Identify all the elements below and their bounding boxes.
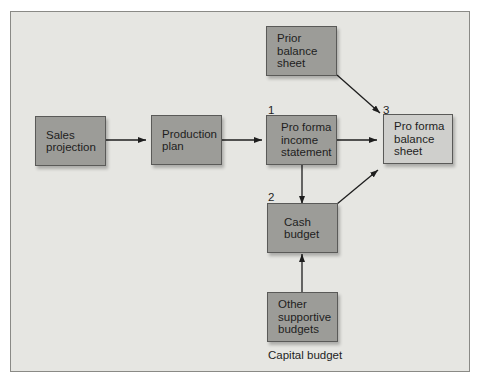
node-other-supportive-budgets: Other supportive budgets bbox=[267, 292, 338, 342]
node-prior-balance-sheet: Prior balance sheet bbox=[266, 26, 337, 76]
node-label: Pro forma balance sheet bbox=[394, 120, 445, 158]
node-label: Production plan bbox=[162, 128, 217, 153]
step-number-2: 2 bbox=[268, 191, 274, 203]
connector-arrows bbox=[0, 0, 482, 383]
node-pro-forma-balance-sheet: Pro forma balance sheet bbox=[383, 114, 453, 164]
node-label: Sales projection bbox=[46, 129, 96, 154]
node-label: Cash budget bbox=[284, 216, 319, 241]
node-sales-projection: Sales projection bbox=[35, 116, 106, 166]
node-label: Pro forma income statement bbox=[281, 121, 332, 159]
node-label: Other supportive budgets bbox=[278, 298, 331, 336]
node-cash-budget: Cash budget bbox=[267, 203, 338, 253]
node-label: Prior balance sheet bbox=[277, 32, 336, 70]
node-pro-forma-income-statement: Pro forma income statement bbox=[266, 115, 337, 165]
caption-capital-budget: Capital budget bbox=[268, 349, 342, 361]
node-production-plan: Production plan bbox=[151, 115, 222, 165]
